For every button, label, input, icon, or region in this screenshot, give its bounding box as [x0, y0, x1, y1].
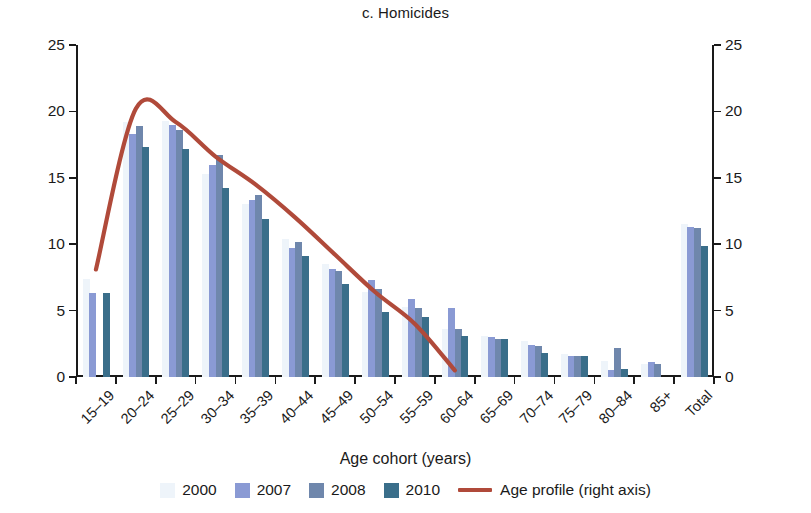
y-tick-label-left: 0 — [56, 369, 65, 385]
x-tick — [514, 377, 516, 384]
age-profile-path — [96, 99, 455, 370]
plot-frame: 0510152025 0510152025 — [76, 45, 714, 377]
chart-title: c. Homicides — [0, 4, 811, 21]
x-tick — [354, 377, 356, 384]
x-tick — [673, 377, 675, 384]
y-tick-right — [714, 243, 721, 245]
x-tick — [195, 377, 197, 384]
legend-label: Age profile (right axis) — [500, 481, 651, 499]
y-tick-label-right: 0 — [725, 369, 734, 385]
y-tick-left — [69, 177, 76, 179]
y-tick-label-right: 10 — [725, 236, 742, 252]
chart-legend: 2000200720082010Age profile (right axis) — [0, 481, 811, 499]
x-tick — [75, 377, 77, 384]
y-tick-right — [714, 44, 721, 46]
legend-label: 2007 — [257, 481, 291, 499]
legend-color-swatch — [235, 483, 250, 498]
legend-item-2008[interactable]: 2008 — [309, 481, 365, 499]
legend-label: 2000 — [182, 481, 216, 499]
x-tick — [474, 377, 476, 384]
y-tick-left — [69, 111, 76, 113]
y-tick-left — [69, 44, 76, 46]
legend-label: 2010 — [406, 481, 440, 499]
y-tick-label-left: 5 — [56, 303, 65, 319]
x-tick — [155, 377, 157, 384]
x-tick — [394, 377, 396, 384]
y-tick-label-left: 15 — [48, 170, 65, 186]
x-tick — [314, 377, 316, 384]
x-tick — [275, 377, 277, 384]
y-tick-label-left: 20 — [48, 103, 65, 119]
age-profile-line — [76, 45, 714, 377]
x-tick — [115, 377, 117, 384]
x-tick — [713, 377, 715, 384]
legend-item-2007[interactable]: 2007 — [235, 481, 291, 499]
legend-item-2010[interactable]: 2010 — [384, 481, 440, 499]
y-tick-left — [69, 310, 76, 312]
legend-line-marker — [458, 488, 492, 493]
y-tick-label-right: 15 — [725, 170, 742, 186]
y-tick-label-left: 10 — [48, 236, 65, 252]
y-tick-left — [69, 243, 76, 245]
legend-color-swatch — [384, 483, 399, 498]
x-tick — [554, 377, 556, 384]
y-tick-right — [714, 376, 721, 378]
plot-area: 0510152025 0510152025 15–1920–2425–2930–… — [76, 45, 714, 377]
x-tick — [434, 377, 436, 384]
legend-color-swatch — [160, 483, 175, 498]
y-tick-label-right: 25 — [725, 37, 742, 53]
y-tick-right — [714, 111, 721, 113]
figure-homicides: c. Homicides Rate (per 100,000 inhabitan… — [0, 0, 811, 513]
legend-label: 2008 — [331, 481, 365, 499]
y-tick-label-right: 20 — [725, 103, 742, 119]
legend-color-swatch — [309, 483, 324, 498]
legend-item-age-profile-right-axis[interactable]: Age profile (right axis) — [458, 481, 651, 499]
y-tick-label-right: 5 — [725, 303, 734, 319]
x-tick — [633, 377, 635, 384]
y-tick-label-left: 25 — [48, 37, 65, 53]
y-tick-right — [714, 177, 721, 179]
x-tick — [594, 377, 596, 384]
legend-item-2000[interactable]: 2000 — [160, 481, 216, 499]
y-axis-left-title: Rate (per 100,000 inhabitants) — [0, 0, 11, 54]
y-tick-right — [714, 310, 721, 312]
x-tick — [235, 377, 237, 384]
